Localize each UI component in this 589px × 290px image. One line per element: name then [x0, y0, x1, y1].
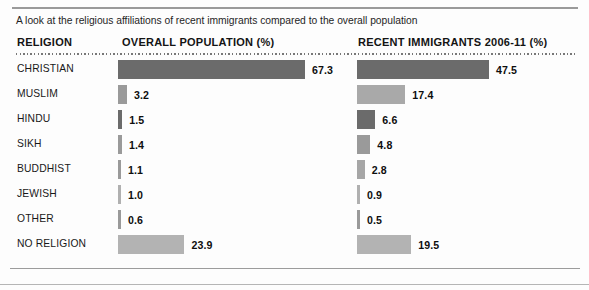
bar	[357, 110, 375, 129]
bar	[118, 210, 121, 229]
bar	[118, 85, 127, 104]
recent-bar-group: 2.8	[357, 160, 387, 179]
bar-value-label: 17.4	[412, 89, 433, 101]
bar-value-label: 23.9	[191, 239, 212, 251]
religion-label: NO RELIGION	[17, 238, 86, 249]
chart-row: NO RELIGION23.919.5	[0, 232, 589, 257]
infographic-panel: A look at the religious affiliations of …	[0, 0, 589, 290]
overall-bar-group: 67.3	[118, 60, 333, 79]
bar-value-label: 67.3	[312, 64, 333, 76]
recent-bar-group: 4.8	[357, 135, 392, 154]
religion-label: OTHER	[17, 213, 54, 224]
bottom-divider	[10, 268, 580, 269]
bar-value-label: 0.9	[367, 189, 382, 201]
chart-row: MUSLIM3.217.4	[0, 82, 589, 107]
religion-label: CHRISTIAN	[17, 63, 74, 74]
overall-bar-group: 0.6	[118, 210, 143, 229]
bar-value-label: 2.8	[372, 164, 387, 176]
overall-bar-group: 1.1	[118, 160, 143, 179]
bar	[357, 235, 411, 254]
bar	[118, 235, 184, 254]
bottom-edge-divider	[0, 284, 589, 285]
overall-bar-group: 23.9	[118, 235, 212, 254]
bar-value-label: 1.1	[128, 164, 143, 176]
deck-text: A look at the religious affiliations of …	[16, 15, 576, 26]
chart-row: SIKH1.44.8	[0, 132, 589, 157]
column-header-religion: RELIGION	[17, 36, 72, 48]
bar	[357, 60, 489, 79]
bar-value-label: 0.5	[367, 214, 382, 226]
bar	[118, 185, 121, 204]
bar	[118, 135, 122, 154]
religion-label: BUDDHIST	[17, 163, 71, 174]
top-divider	[12, 7, 578, 9]
recent-bar-group: 0.9	[357, 185, 382, 204]
recent-bar-group: 6.6	[357, 110, 397, 129]
chart-row: HINDU1.56.6	[0, 107, 589, 132]
overall-bar-group: 3.2	[118, 85, 149, 104]
overall-bar-group: 1.0	[118, 185, 143, 204]
bar	[357, 210, 360, 229]
bar	[357, 185, 360, 204]
bar-value-label: 19.5	[418, 239, 439, 251]
religion-label: JEWISH	[17, 188, 57, 199]
chart-row: OTHER0.60.5	[0, 207, 589, 232]
bar-value-label: 1.4	[129, 139, 144, 151]
bar-value-label: 47.5	[496, 64, 517, 76]
overall-bar-group: 1.5	[118, 110, 144, 129]
column-header-overall-population: OVERALL POPULATION (%)	[122, 36, 274, 48]
bar-value-label: 3.2	[134, 89, 149, 101]
bar-value-label: 4.8	[377, 139, 392, 151]
bar	[118, 60, 305, 79]
religion-label: MUSLIM	[17, 88, 58, 99]
religion-label: SIKH	[17, 138, 42, 149]
recent-bar-group: 17.4	[357, 85, 433, 104]
chart-rows: CHRISTIAN67.347.5MUSLIM3.217.4HINDU1.56.…	[0, 57, 589, 257]
bar	[357, 160, 365, 179]
chart-row: CHRISTIAN67.347.5	[0, 57, 589, 82]
bar	[118, 110, 122, 129]
bar	[357, 85, 405, 104]
header-dotted-divider	[16, 53, 578, 55]
bar-value-label: 0.6	[128, 214, 143, 226]
bar	[357, 135, 370, 154]
overall-bar-group: 1.4	[118, 135, 144, 154]
bar	[118, 160, 121, 179]
recent-bar-group: 19.5	[357, 235, 439, 254]
recent-bar-group: 0.5	[357, 210, 382, 229]
chart-row: JEWISH1.00.9	[0, 182, 589, 207]
religion-label: HINDU	[17, 113, 50, 124]
column-header-recent-immigrants: RECENT IMMIGRANTS 2006-11 (%)	[358, 36, 547, 48]
bar-value-label: 1.0	[128, 189, 143, 201]
recent-bar-group: 47.5	[357, 60, 517, 79]
bar-value-label: 6.6	[382, 114, 397, 126]
bar-value-label: 1.5	[129, 114, 144, 126]
chart-row: BUDDHIST1.12.8	[0, 157, 589, 182]
